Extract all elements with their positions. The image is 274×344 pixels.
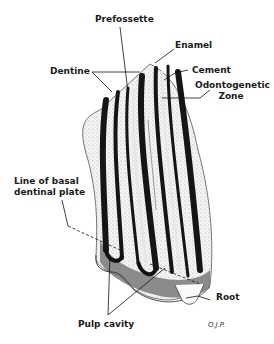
label-pulp-cavity: Pulp cavity	[78, 319, 134, 330]
label-dentine: Dentine	[50, 66, 90, 77]
label-root: Root	[216, 292, 240, 303]
label-basal-dentinal-plate: Line of basal dentinal plate	[14, 176, 78, 198]
label-prefossette: Prefossette	[95, 14, 154, 25]
label-odontogenetic-line2: Zone	[195, 91, 267, 102]
artist-signature: O.J.P.	[208, 321, 225, 329]
root-outline	[175, 284, 204, 304]
label-basal-line2: dentinal plate	[14, 187, 78, 198]
label-odontogenetic-line1: Odontogenetic	[195, 80, 267, 91]
label-cement: Cement	[192, 65, 231, 76]
label-basal-line1: Line of basal	[14, 176, 78, 187]
label-odontogenetic-zone: Odontogenetic Zone	[195, 80, 267, 102]
label-enamel: Enamel	[175, 40, 212, 51]
